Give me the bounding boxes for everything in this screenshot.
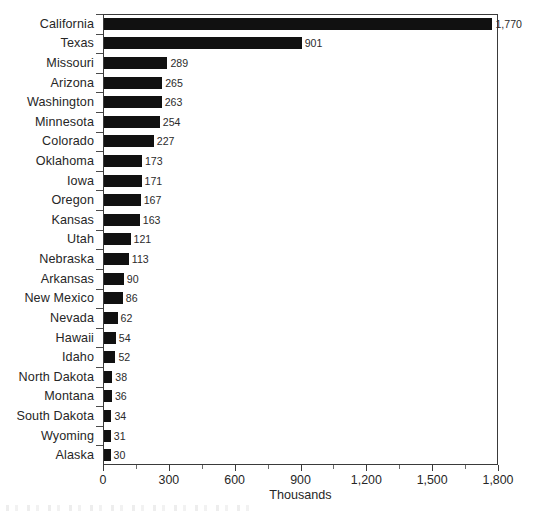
y-axis-tick (96, 387, 103, 388)
bar-value-label: 30 (114, 450, 126, 461)
y-axis-tick (96, 426, 103, 427)
y-axis-tick (96, 34, 103, 35)
category-label: North Dakota (19, 370, 94, 383)
bar (104, 430, 111, 442)
bar-value-label: 901 (305, 38, 323, 49)
bar-value-label: 31 (114, 430, 126, 441)
y-axis-tick (96, 73, 103, 74)
bar-value-label: 121 (134, 234, 152, 245)
bar (104, 351, 115, 363)
category-label: South Dakota (16, 410, 94, 423)
bar-value-label: 1,770 (495, 19, 522, 30)
bar-row: Texas901 (0, 34, 534, 54)
bar-row: Arizona265 (0, 73, 534, 93)
category-label: Montana (44, 390, 94, 403)
bar-row: Minnesota254 (0, 112, 534, 132)
bar (104, 57, 167, 69)
category-label: Texas (61, 37, 94, 50)
x-axis-tick-label: 1,200 (351, 474, 382, 486)
y-axis-tick (96, 328, 103, 329)
footer-artifact (6, 505, 256, 511)
y-axis-tick (96, 406, 103, 407)
bar-row: Washington263 (0, 92, 534, 112)
bar-value-label: 86 (126, 293, 138, 304)
bar-row: Hawaii54 (0, 328, 534, 348)
category-label: Nebraska (39, 253, 94, 266)
y-axis-tick (96, 132, 103, 133)
category-label: Arizona (51, 76, 94, 89)
category-label: Missouri (46, 57, 94, 70)
y-axis-tick (96, 347, 103, 348)
x-axis-title: Thousands (103, 488, 498, 502)
bar-row: Nevada62 (0, 308, 534, 328)
y-axis-tick (96, 210, 103, 211)
bar-row: Arkansas90 (0, 269, 534, 289)
bar-row: California1,770 (0, 14, 534, 34)
bar (104, 410, 111, 422)
bar-row: Colorado227 (0, 132, 534, 152)
bar-value-label: 171 (145, 175, 163, 186)
x-axis-minor-tick (202, 465, 203, 469)
bar-value-label: 36 (115, 391, 127, 402)
bar-value-label: 254 (163, 117, 181, 128)
bar (104, 233, 131, 245)
bar-value-label: 90 (127, 273, 139, 284)
bar-value-label: 62 (121, 313, 133, 324)
bar-value-label: 167 (144, 195, 162, 206)
bar (104, 273, 124, 285)
x-axis-minor-tick (268, 465, 269, 469)
y-axis-tick (96, 230, 103, 231)
x-axis-minor-tick (333, 465, 334, 469)
y-axis-tick (96, 112, 103, 113)
x-axis-minor-tick (399, 465, 400, 469)
bar-row: Nebraska113 (0, 249, 534, 269)
bar-row: Wyoming31 (0, 426, 534, 446)
x-axis-tick (432, 465, 433, 471)
bar (104, 292, 123, 304)
bar-value-label: 163 (143, 215, 161, 226)
bar-row: Idaho52 (0, 347, 534, 367)
bar-value-label: 263 (165, 97, 183, 108)
x-axis-tick-label: 0 (100, 474, 107, 486)
x-axis-minor-tick (136, 465, 137, 469)
bar (104, 155, 142, 167)
category-label: California (40, 18, 94, 31)
category-label: Kansas (51, 214, 94, 227)
bar-row: Utah121 (0, 230, 534, 250)
bar-row: Missouri289 (0, 53, 534, 73)
bar-value-label: 113 (132, 254, 149, 265)
bar (104, 18, 492, 30)
category-label: Utah (67, 233, 94, 246)
category-label: Minnesota (35, 116, 94, 129)
bar (104, 371, 112, 383)
y-axis-tick (96, 190, 103, 191)
x-axis-tick (169, 465, 170, 471)
y-axis-tick (96, 289, 103, 290)
bar (104, 194, 141, 206)
bar-row: Alaska30 (0, 445, 534, 465)
bar (104, 116, 160, 128)
bar-value-label: 34 (114, 411, 126, 422)
category-label: Colorado (42, 135, 94, 148)
bar (104, 253, 129, 265)
bar-value-label: 52 (118, 352, 130, 363)
bar-row: Montana36 (0, 387, 534, 407)
y-axis-tick (96, 171, 103, 172)
bar-chart: California1,770Texas901Missouri289Arizon… (0, 0, 534, 515)
bar (104, 175, 142, 187)
category-label: Nevada (50, 312, 94, 325)
bar-row: Iowa171 (0, 171, 534, 191)
x-axis-tick-label: 1,800 (482, 474, 513, 486)
x-axis-tick (366, 465, 367, 471)
category-label: Oklahoma (36, 155, 94, 168)
bar (104, 135, 154, 147)
y-axis-tick (96, 445, 103, 446)
category-label: Oregon (51, 194, 94, 207)
bar (104, 390, 112, 402)
x-axis-tick (235, 465, 236, 471)
bar (104, 332, 116, 344)
category-label: Arkansas (41, 272, 94, 285)
category-label: Iowa (67, 174, 94, 187)
bar (104, 214, 140, 226)
bar-row: Oklahoma173 (0, 151, 534, 171)
